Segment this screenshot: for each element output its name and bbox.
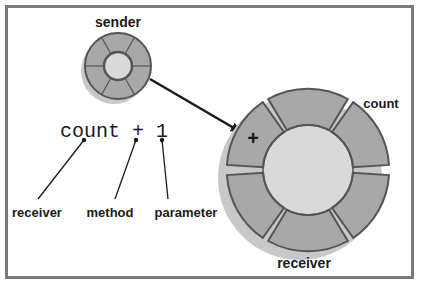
method-plus-symbol: +: [247, 127, 259, 149]
sender-label: sender: [95, 14, 141, 30]
leader-lines: [38, 140, 168, 199]
count-slot-label: count: [363, 96, 399, 111]
method-leader: [115, 140, 136, 199]
sender-object: [81, 33, 151, 104]
annotation-parameter: parameter: [155, 205, 218, 220]
receiver-object-label: receiver: [277, 255, 331, 271]
message-passing-diagram: sender + count receiver count + 1 receiv…: [0, 0, 421, 286]
annotation-receiver: receiver: [12, 205, 62, 220]
receiver-object: [218, 89, 389, 260]
annotation-method: method: [87, 205, 134, 220]
expression-text: count + 1: [60, 120, 168, 143]
sender-core: [104, 52, 132, 80]
parameter-leader: [162, 140, 168, 199]
receiver-leader: [38, 140, 84, 199]
